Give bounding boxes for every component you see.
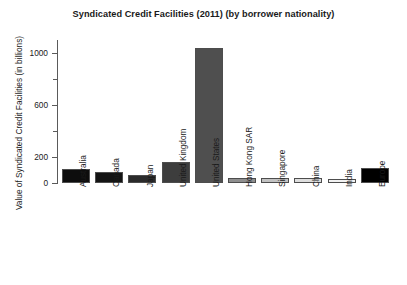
x-tick-label: China [312,166,321,187]
x-tick-label: Europe [378,161,387,187]
bars-layer: AustraliaCanadaJapanUnited KingdomUnited… [0,0,407,285]
x-tick-label: Singapore [278,150,287,187]
x-tick-label: India [345,169,354,187]
x-tick-label: Japan [146,165,155,187]
x-tick-label: Australia [79,155,88,187]
x-tick-label: Hong Kong SAR [245,127,254,187]
x-tick-label: Canada [112,158,121,187]
x-tick-label: United Kingdom [179,129,188,187]
x-tick-label: United States [212,138,221,187]
chart-figure: Syndicated Credit Facilities (2011) (by … [0,0,407,285]
